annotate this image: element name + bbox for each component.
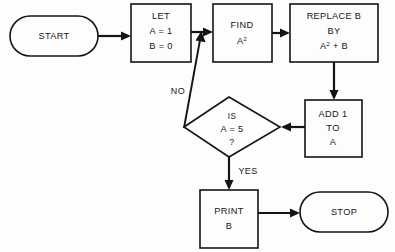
edge-print-to-stop xyxy=(258,209,300,218)
let-line-1: LET xyxy=(152,11,170,21)
decision-line-3: ? xyxy=(230,138,235,147)
let-process[interactable]: LET A = 1 B = 0 xyxy=(131,4,191,62)
let-line-3: B = 0 xyxy=(149,41,172,51)
flowchart-canvas: START LET A = 1 B = 0 FIND A2 REPLACE B … xyxy=(0,0,395,252)
stop-label: STOP xyxy=(331,207,357,217)
decision-line-1: IS xyxy=(228,112,237,121)
decision-line-2: A = 5 xyxy=(221,124,244,134)
print-line-1: PRINT xyxy=(214,206,243,216)
add-line-3: A xyxy=(330,137,337,147)
replace-line-2: BY xyxy=(328,26,341,36)
print-process[interactable]: PRINT B xyxy=(200,190,258,248)
start-label: START xyxy=(38,31,69,41)
edge-start-to-let xyxy=(98,32,131,41)
let-line-2: A = 1 xyxy=(150,26,173,36)
find-process[interactable]: FIND A2 xyxy=(213,4,272,62)
replace-line-3-tail: + B xyxy=(330,41,348,51)
add-line-1: ADD 1 xyxy=(319,109,348,119)
add-line-2: TO xyxy=(326,123,339,133)
replace-process[interactable]: REPLACE B BY A2 + B xyxy=(290,4,378,62)
find-line-2-superscript: 2 xyxy=(243,36,247,42)
find-line-1: FIND xyxy=(231,20,254,30)
add-process[interactable]: ADD 1 TO A xyxy=(305,100,362,157)
print-line-2: B xyxy=(226,221,232,231)
stop-terminator[interactable]: STOP xyxy=(300,192,388,232)
edge-decision-yes-to-print xyxy=(225,157,234,190)
edge-add-to-decision xyxy=(281,123,305,132)
replace-line-3: A2 + B xyxy=(320,41,348,52)
edge-find-to-replace xyxy=(272,29,290,38)
edge-replace-to-add xyxy=(330,62,339,100)
edge-label-yes: YES xyxy=(238,166,257,176)
flowchart-svg: START LET A = 1 B = 0 FIND A2 REPLACE B … xyxy=(0,0,395,252)
replace-line-1: REPLACE B xyxy=(307,11,362,21)
decision-diamond[interactable]: IS A = 5 ? xyxy=(184,97,280,157)
start-terminator[interactable]: START xyxy=(10,16,98,56)
edge-label-no: NO xyxy=(171,86,185,96)
